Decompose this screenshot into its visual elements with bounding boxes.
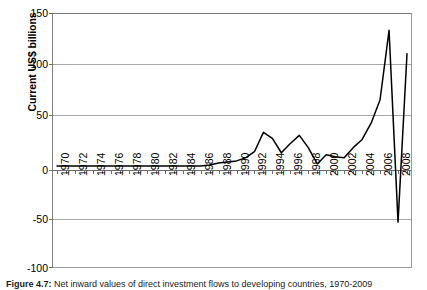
x-axis-tick-labels: 1970197219741976197819801982198419861988… bbox=[52, 170, 412, 280]
x-tick-label: 2004 bbox=[365, 153, 376, 176]
x-tick-label: 1998 bbox=[311, 153, 322, 176]
figure-caption-label: Figure 4.7: bbox=[6, 279, 52, 289]
x-tick-label: 1978 bbox=[132, 153, 143, 176]
x-tick-label: 2000 bbox=[329, 153, 340, 176]
x-tick-label: 1982 bbox=[168, 153, 179, 176]
x-tick-label: 2008 bbox=[401, 153, 412, 176]
y-tick-label: 50 bbox=[4, 110, 48, 121]
x-tick-label: 1992 bbox=[257, 153, 268, 176]
y-axis-tick-labels: 150 100 50 0 -50 -100 bbox=[0, 0, 48, 288]
x-tick-label: 1970 bbox=[60, 153, 71, 176]
x-tick-label: 1984 bbox=[186, 153, 197, 176]
x-tick-label: 1986 bbox=[204, 153, 215, 176]
y-tick-label: 100 bbox=[4, 59, 48, 70]
x-tick-label: 1976 bbox=[114, 153, 125, 176]
x-tick-label: 1972 bbox=[78, 153, 89, 176]
x-tick-label: 1994 bbox=[275, 153, 286, 176]
x-tick-label: 1990 bbox=[240, 153, 251, 176]
x-tick-label: 2002 bbox=[347, 153, 358, 176]
x-tick-label: 1974 bbox=[96, 153, 107, 176]
x-tick-label: 1996 bbox=[293, 153, 304, 176]
y-tick-label: -50 bbox=[4, 214, 48, 225]
y-tick-label: 0 bbox=[4, 165, 48, 176]
x-tick-label: 1988 bbox=[222, 153, 233, 176]
y-tick-label: 150 bbox=[4, 8, 48, 19]
y-tick-label: -100 bbox=[4, 263, 48, 274]
x-tick-label: 2006 bbox=[383, 153, 394, 176]
figure-caption-text: Net inward values of direct investment f… bbox=[54, 279, 372, 289]
figure-caption: Figure 4.7: Net inward values of direct … bbox=[6, 279, 424, 290]
x-tick-label: 1980 bbox=[150, 153, 161, 176]
